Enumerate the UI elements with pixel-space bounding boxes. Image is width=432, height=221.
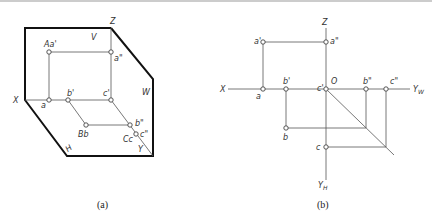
label-a2: a" [330,37,339,46]
label-Bb: Bb [78,130,89,139]
point-c1 [109,98,113,102]
label-c1: c' [103,89,110,98]
label-c2: c" [140,130,148,139]
45deg-line [326,89,394,155]
label-YW: YW [413,85,425,95]
point-a2 [324,40,328,44]
label-Aa: Aa' [43,40,57,49]
label-V: V [91,33,97,42]
point-b1 [284,87,288,91]
label-YH: YH [318,181,328,191]
y-axis [111,100,153,156]
figure-a: Z V Aa' a" W X a b' c' Bb b" Cc c" H Y (… [12,17,153,211]
label-Z: Z [109,17,116,26]
label-a2: a" [114,54,123,63]
label-Y: Y [138,145,144,154]
point-a [261,87,265,91]
point-b2 [364,87,368,91]
point-Bb [84,123,88,127]
label-b: b [283,133,288,142]
caption-b: (b) [317,199,329,211]
projection-diagram: Z V Aa' a" W X a b' c' Bb b" Cc c" H Y (… [0,0,432,221]
point-c [324,145,328,149]
label-b1: b' [283,77,290,86]
caption-a: (a) [97,199,108,211]
label-Cc: Cc [123,135,134,144]
label-c1: c' [317,84,324,93]
point-b1 [66,98,70,102]
label-a: a [256,92,261,101]
proj-line [68,100,86,125]
label-b2: b" [363,77,372,86]
label-c: c [316,143,321,152]
label-X: X [219,85,226,94]
point-c2 [384,87,388,91]
label-c2: c" [390,77,398,86]
point-a [47,98,51,102]
point-b2 [128,123,132,127]
label-X: X [12,96,19,105]
label-W: W [142,88,151,97]
label-b2: b" [135,119,144,128]
label-b1: b' [67,89,74,98]
point-a2 [109,50,113,54]
figure-b: Z a' a" X a b' c' O b" c" YW b c YH (b) [219,18,425,211]
point-c2 [134,132,138,136]
point-b [284,126,288,130]
label-O: O [331,77,337,86]
label-a1: a' [254,37,261,46]
label-a: a [41,101,46,110]
point-c1 [324,87,328,91]
point-a1 [261,40,265,44]
point-Aa [47,50,51,54]
label-Z: Z [321,18,328,27]
